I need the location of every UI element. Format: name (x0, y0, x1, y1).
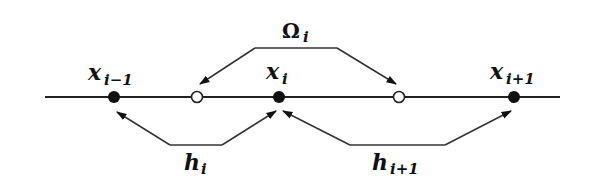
svg-text:x: x (87, 59, 102, 85)
svg-text:i+1: i+1 (390, 160, 419, 178)
finite-volume-grid-diagram: x i−1 x i x i+1 Ω i h i h i+1 (0, 0, 592, 184)
grid-point-x-i-plus-1 (508, 91, 520, 103)
label-omega-i: Ω i (282, 19, 309, 46)
svg-text:h: h (184, 149, 200, 175)
midpoint-left (192, 92, 203, 103)
svg-text:h: h (372, 149, 388, 175)
label-x-i-minus-1: x i−1 (87, 59, 133, 89)
grid-point-x-i (273, 91, 285, 103)
label-h-i: h i (184, 149, 207, 178)
label-x-i: x i (265, 58, 288, 88)
h-i-bracket (117, 111, 276, 145)
svg-text:i−1: i−1 (104, 71, 133, 89)
svg-text:Ω: Ω (282, 19, 300, 43)
svg-text:i: i (303, 28, 309, 46)
label-h-i-plus-1: h i+1 (372, 149, 419, 178)
svg-text:x: x (489, 58, 504, 84)
svg-text:i: i (282, 70, 288, 88)
diagram-svg: x i−1 x i x i+1 Ω i h i h i+1 (0, 0, 592, 184)
svg-text:x: x (265, 58, 280, 84)
svg-text:i: i (201, 160, 207, 178)
midpoint-right (394, 92, 405, 103)
svg-text:i+1: i+1 (506, 70, 535, 88)
omega-bracket (200, 48, 396, 84)
h-i-plus-1-bracket (283, 111, 511, 145)
grid-point-x-i-minus-1 (108, 91, 120, 103)
label-x-i-plus-1: x i+1 (489, 58, 535, 88)
